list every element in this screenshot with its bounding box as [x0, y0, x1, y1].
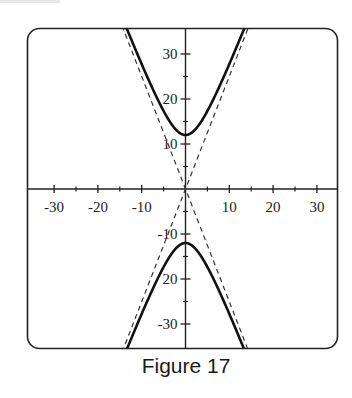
y-tick-label: 10: [163, 136, 178, 152]
x-tick-label: -20: [88, 199, 108, 215]
y-tick-label: 20: [163, 271, 178, 287]
y-tick-label: 20: [163, 91, 178, 107]
hyperbola-plot: -30-20-10102030302010-1020-30: [0, 0, 352, 398]
x-tick-label: 10: [222, 199, 237, 215]
x-tick-label: 30: [309, 199, 324, 215]
y-tick-label: -30: [158, 316, 178, 332]
figure-caption: Figure 17: [0, 354, 352, 378]
x-tick-label: -30: [44, 199, 64, 215]
x-tick-label: -10: [132, 199, 152, 215]
y-tick-label: 30: [163, 46, 178, 62]
axes: [28, 29, 338, 349]
x-tick-label: 20: [266, 199, 281, 215]
